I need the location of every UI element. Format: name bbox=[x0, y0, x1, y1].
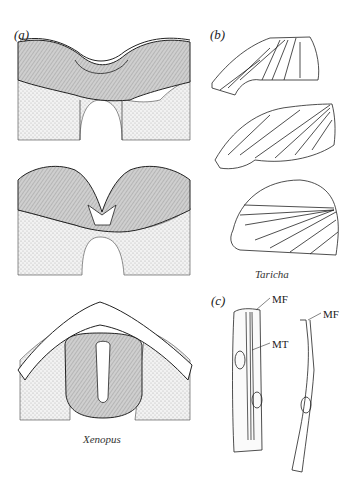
annotation-leader-lines bbox=[0, 0, 361, 496]
